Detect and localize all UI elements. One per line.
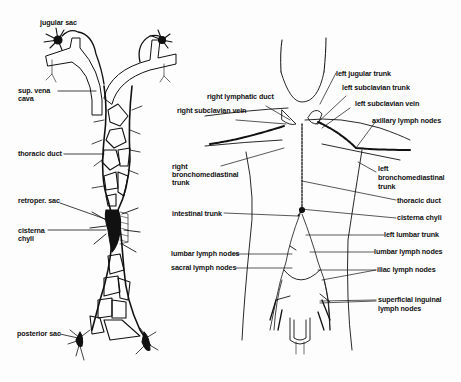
lymphatic-diagram: jugular sac sup. vena cava thoracic duct… (0, 0, 461, 382)
label-iliac-lymph-nodes: iliac lymph nodes (377, 266, 436, 274)
label-left-jugular-trunk: left jugular trunk (336, 70, 391, 78)
label-left-bronchomediastinal-line2: bronchomediastinal (378, 174, 445, 182)
label-intestinal-trunk: intestinal trunk (172, 210, 222, 218)
label-cisterna-chyli-right: cisterna chyli (397, 214, 442, 222)
label-superficial-inguinal-line1: superficial inguinal (378, 296, 442, 304)
label-right-subclavian-vein: right subclavian vein (177, 107, 246, 115)
label-left-lumbar-trunk: left lumbar trunk (384, 231, 439, 239)
label-lumbar-lymph-nodes-right: lumbar lymph nodes (374, 248, 443, 256)
label-right-bronchomediastinal-line3: trunk (172, 179, 189, 187)
jugular-sac-right-icon (152, 30, 172, 48)
label-sacral-lymph-nodes: sacral lymph nodes (171, 264, 236, 272)
label-lumbar-lymph-nodes-left: lumbar lymph nodes (171, 250, 240, 258)
label-thoracic-duct-left: thoracic duct (18, 150, 62, 158)
label-left-bronchomediastinal-line1: left (378, 165, 388, 173)
label-left-subclavian-vein: left subclavian vein (355, 100, 419, 108)
posterior-sac-right-icon (136, 328, 158, 354)
label-retroper-sac: retroper. sac (18, 197, 60, 205)
label-sup-vena-cava-line2: cava (18, 95, 34, 103)
label-left-subclavian-trunk: left subclavian trunk (342, 84, 410, 92)
diagram-drawing (0, 0, 461, 382)
cisterna-chyli-shape (105, 210, 120, 252)
jugular-sac-left-icon (44, 28, 64, 50)
posterior-sac-left-icon (68, 330, 90, 360)
label-left-bronchomediastinal-line3: trunk (378, 183, 395, 191)
label-superficial-inguinal-line2: lymph nodes (378, 305, 421, 313)
label-cisterna-chyli-left-line2: chyli (18, 235, 34, 243)
label-right-lymphatic-duct: right lymphatic duct (207, 93, 274, 101)
label-posterior-sac: posterior sac (17, 330, 61, 338)
label-jugular-sac: jugular sac (40, 19, 77, 27)
label-thoracic-duct-right: thoracic duct (397, 197, 441, 205)
label-axillary-lymph-nodes: axillary lymph nodes (372, 117, 441, 125)
